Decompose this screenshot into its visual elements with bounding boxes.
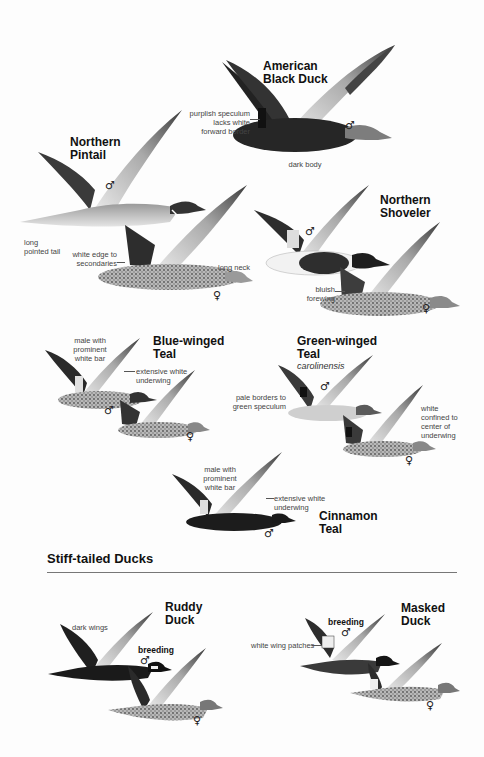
leader-line xyxy=(117,262,125,263)
species-name-masked-duck: MaskedDuck xyxy=(401,602,445,628)
leader-line xyxy=(266,498,274,499)
female-symbol: ♀ xyxy=(213,290,221,301)
species-name-cinnamon-teal: CinnamonTeal xyxy=(319,510,378,536)
female-symbol: ♀ xyxy=(422,303,430,314)
female-symbol: ♀ xyxy=(405,455,413,466)
note-extensive-white-underwing: extensive whiteunderwing xyxy=(274,494,325,512)
male-symbol: ♂ xyxy=(305,226,315,237)
species-name-northern-shoveler: NorthernShoveler xyxy=(380,194,431,220)
note-extensive-white-underwing: extensive whiteunderwing xyxy=(136,367,187,385)
male-symbol: ♂ xyxy=(105,180,115,191)
female-symbol: ♀ xyxy=(426,700,434,711)
note-white-confined-underwing: whiteconfined tocenter ofunderwing xyxy=(421,404,458,440)
male-symbol: ♂ xyxy=(140,655,150,666)
species-name-ruddy-duck: RuddyDuck xyxy=(165,601,202,627)
male-symbol: ♂ xyxy=(104,405,114,416)
note-long-pointed-tail: longpointed tail xyxy=(24,238,60,256)
female-symbol: ♀ xyxy=(186,431,194,442)
note-bluish-forewing: bluishforewing xyxy=(295,285,335,303)
subspecies-label: carolinensis xyxy=(297,361,377,372)
note-pale-borders-green-speculum: pale borders togreen speculum xyxy=(228,393,286,411)
note-long-neck: long neck xyxy=(218,263,250,272)
leader-line xyxy=(335,291,345,292)
male-symbol: ♂ xyxy=(345,120,355,131)
male-symbol: ♂ xyxy=(320,381,330,392)
cinnamon-teal-male-illustration xyxy=(172,452,297,532)
note-white-wing-patches: white wing patches xyxy=(251,641,314,650)
female-symbol: ♀ xyxy=(193,715,201,726)
section-title-stiff-tailed-ducks: Stiff-tailed Ducks xyxy=(47,551,153,566)
note-white-edge-secondaries: white edge tosecondaries xyxy=(62,250,117,268)
section-divider xyxy=(47,572,457,573)
species-name-northern-pintail: NorthernPintail xyxy=(70,136,121,162)
male-symbol: ♂ xyxy=(264,528,274,539)
northern-pintail-female-illustration xyxy=(75,185,255,295)
ruddy-duck-female-illustration xyxy=(108,648,223,723)
masked-duck-female-illustration xyxy=(350,643,460,703)
leader-line xyxy=(124,371,135,372)
leader-line xyxy=(250,119,260,120)
american-black-duck-male-illustration xyxy=(220,40,400,160)
species-name-american-black-duck: AmericanBlack Duck xyxy=(263,60,328,86)
species-name-blue-winged-teal: Blue-wingedTeal xyxy=(153,335,224,361)
male-symbol: ♂ xyxy=(341,627,351,638)
note-dark-wings: dark wings xyxy=(72,623,108,632)
note-male-prominent-white-bar: male withprominentwhite bar xyxy=(200,465,240,492)
note-dark-body: dark body xyxy=(280,160,330,169)
note-male-prominent-white-bar: male withprominentwhite bar xyxy=(70,336,110,363)
leader-line xyxy=(312,645,322,646)
species-name-green-winged-teal: Green-wingedTeal carolinensis xyxy=(297,335,377,372)
